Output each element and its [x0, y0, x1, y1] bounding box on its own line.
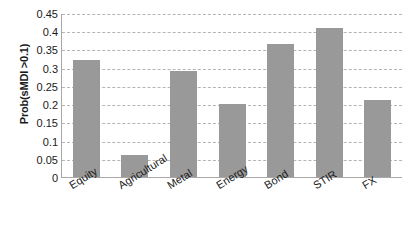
y-tick-label: 0.1 [43, 136, 58, 147]
y-axis-tick-labels: 00.050.10.150.20.250.30.350.40.45 [22, 14, 58, 178]
bar-slot [208, 14, 257, 177]
y-tick-label: 0.15 [37, 118, 58, 129]
bar-slot [353, 14, 402, 177]
bar[interactable] [267, 44, 294, 177]
y-tick-label: 0.4 [43, 27, 58, 38]
bar-slot [111, 14, 160, 177]
bar-slot [305, 14, 354, 177]
bar-chart-figure: Prob(sMDI >0.1) 00.050.10.150.20.250.30.… [0, 0, 408, 232]
plot-area [61, 14, 402, 178]
bar[interactable] [170, 71, 197, 177]
bar-slot [159, 14, 208, 177]
bar-series [62, 14, 402, 177]
bar-slot [62, 14, 111, 177]
y-tick-label: 0.3 [43, 63, 58, 74]
y-tick-label: 0.35 [37, 45, 58, 56]
bar[interactable] [364, 100, 391, 177]
y-tick-label: 0.25 [37, 81, 58, 92]
y-tick-label: 0.45 [37, 9, 58, 20]
x-axis-tick-labels: EquityAgriculturalMetalEnergyBondSTIRFX [61, 178, 402, 232]
bar[interactable] [316, 28, 343, 177]
y-tick-label: 0.05 [37, 154, 58, 165]
bar-slot [256, 14, 305, 177]
y-tick-label: 0 [52, 173, 58, 184]
bar[interactable] [73, 60, 100, 177]
y-tick-label: 0.2 [43, 100, 58, 111]
